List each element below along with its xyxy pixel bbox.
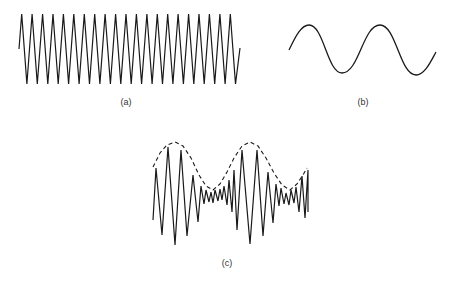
modulating-sine-wave-b [289,25,436,75]
panel-label-a: (a) [121,98,132,107]
modulated-wave-c [153,147,308,245]
am-waveform-figure [0,0,458,282]
panel-label-c: (c) [222,259,233,268]
panel-label-b: (b) [358,98,369,107]
envelope-dashed-line-c [153,142,307,190]
carrier-wave-a [19,14,240,84]
